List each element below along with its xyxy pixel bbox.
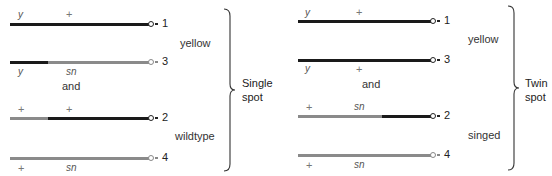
chromatid-right-segment [48, 61, 150, 64]
chromatid-end [155, 157, 158, 159]
allele-y: y [305, 7, 310, 18]
group-label-line2: spot [525, 90, 548, 104]
group-label-line1: Twin [525, 76, 548, 90]
chromatid-number: 1 [444, 14, 450, 26]
chromatid-left-segment [10, 61, 48, 64]
allele-sn: sn [354, 101, 365, 112]
centromere-icon [430, 152, 436, 158]
centromere-icon [430, 18, 436, 24]
chromatid-number: 4 [444, 148, 450, 160]
and-label: and [62, 80, 80, 92]
allele-plus: + [306, 159, 312, 171]
chromatid-end [437, 154, 440, 156]
chromatid-number: 1 [162, 17, 168, 29]
allele-plus: + [356, 63, 362, 75]
centromere-icon [430, 113, 436, 119]
allele-plus: + [306, 101, 312, 113]
chromatid-number: 2 [444, 109, 450, 121]
allele-plus: + [66, 103, 72, 115]
allele-sn: sn [66, 162, 77, 173]
singed-label: singed [468, 129, 500, 141]
centromere-icon [148, 59, 154, 65]
and-label: and [362, 78, 380, 90]
allele-plus: + [66, 8, 72, 20]
chromatid-right-segment [58, 23, 150, 26]
chromatid-number: 3 [444, 53, 450, 65]
chromatid-left-segment [10, 23, 58, 26]
chromatid-left-segment [298, 115, 382, 118]
allele-sn: sn [354, 159, 365, 170]
allele-y: y [305, 63, 310, 74]
chromatid-left-segment [10, 117, 48, 120]
chromatid-left-segment [298, 59, 382, 62]
chromatid-segment [298, 20, 432, 23]
centromere-icon [148, 115, 154, 121]
twin-spot-label: Twin spot [525, 76, 548, 104]
chromatid-right-segment [382, 115, 432, 118]
chromatid-number: 2 [162, 111, 168, 123]
chromatid-right-segment [48, 117, 150, 120]
allele-plus: + [18, 162, 24, 174]
group-label-line2: spot [242, 90, 273, 104]
allele-sn: sn [66, 66, 77, 77]
chromatid-right-segment [382, 59, 432, 62]
allele-plus: + [18, 103, 24, 115]
chromatid-number: 4 [162, 151, 168, 163]
chromatid-end [437, 115, 440, 117]
allele-y: y [18, 66, 23, 77]
single-spot-label: Single spot [242, 76, 273, 104]
centromere-icon [430, 57, 436, 63]
chromatid-end [437, 20, 440, 22]
chromatid-end [437, 59, 440, 61]
group-label-line1: Single [242, 76, 273, 90]
yellow-label: yellow [468, 33, 499, 45]
allele-plus: + [356, 6, 362, 18]
wildtype-label: wildtype [175, 130, 215, 142]
chromatid-end [155, 23, 158, 25]
centromere-icon [148, 21, 154, 27]
yellow-label: yellow [180, 37, 211, 49]
curly-brace-icon [506, 5, 520, 171]
curly-brace-icon [222, 8, 236, 172]
centromere-icon [148, 155, 154, 161]
chromatid-end [155, 117, 158, 119]
chromatid-segment [10, 157, 150, 160]
allele-y: y [18, 9, 23, 20]
chromatid-segment [298, 154, 432, 157]
chromatid-number: 3 [162, 55, 168, 67]
chromatid-end [155, 61, 158, 63]
